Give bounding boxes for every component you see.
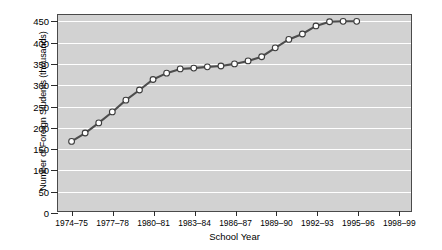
data-point-marker [327, 19, 333, 25]
plot-area: 0501001502002503003504004501974–751977–7… [57, 14, 412, 212]
x-axis-tick [195, 211, 196, 216]
y-axis-tick [51, 192, 58, 193]
data-point-marker [300, 31, 306, 37]
chart-figure: Number of Foreign Students (thousands) 0… [0, 0, 442, 250]
x-axis-tick-label: 1974–75 [55, 218, 88, 228]
y-axis-tick-label: 250 [33, 101, 49, 112]
data-point-marker [218, 63, 224, 69]
data-point-marker [272, 45, 278, 51]
data-point-marker [123, 97, 129, 103]
x-axis-tick [358, 211, 359, 216]
x-axis-tick [72, 211, 73, 216]
y-axis-tick-label: 0 [44, 208, 49, 219]
x-axis-tick-label: 1992–93 [301, 218, 334, 228]
data-point-marker [204, 64, 210, 70]
y-axis-tick-label: 350 [33, 58, 49, 69]
data-point-marker [232, 61, 238, 67]
data-point-marker [286, 37, 292, 43]
y-axis-tick [51, 149, 58, 150]
x-axis-tick [399, 211, 400, 216]
y-axis-tick-label: 150 [33, 144, 49, 155]
x-axis-tick [236, 211, 237, 216]
x-axis-tick [154, 211, 155, 216]
y-axis-tick [51, 107, 58, 108]
x-axis-tick [113, 211, 114, 216]
y-axis-tick-label: 450 [33, 16, 49, 27]
x-axis-tick [317, 211, 318, 216]
y-axis-tick-label: 50 [38, 186, 49, 197]
x-axis-tick [276, 211, 277, 216]
data-point-marker [164, 70, 170, 76]
y-axis-tick-label: 400 [33, 37, 49, 48]
data-point-marker [191, 65, 197, 71]
data-point-marker [150, 77, 156, 83]
y-axis-tick [51, 128, 58, 129]
data-point-marker [96, 120, 102, 126]
data-line [72, 21, 357, 141]
x-axis-tick-label: 1977–78 [96, 218, 129, 228]
y-axis-tick-label: 200 [33, 122, 49, 133]
x-axis-tick-label: 1983–84 [178, 218, 211, 228]
x-axis-tick-label: 1989–90 [260, 218, 293, 228]
data-point-marker [313, 23, 319, 29]
y-axis-tick [51, 21, 58, 22]
data-point-marker [245, 58, 251, 64]
data-point-marker [259, 54, 265, 60]
x-axis-tick-label: 1986–87 [219, 218, 252, 228]
data-point-marker [137, 87, 143, 93]
data-point-marker [340, 18, 346, 24]
y-axis-tick-label: 300 [33, 80, 49, 91]
data-point-marker [109, 109, 115, 115]
x-axis-tick-label: 1995–96 [342, 218, 375, 228]
data-point-marker [82, 130, 88, 136]
y-axis-tick [51, 85, 58, 86]
data-point-marker [354, 18, 360, 24]
x-axis-tick-label: 1980–81 [137, 218, 170, 228]
y-axis-tick [51, 64, 58, 65]
y-axis-tick [51, 170, 58, 171]
x-axis-tick-label: 1998–99 [383, 218, 416, 228]
data-point-marker [69, 139, 75, 145]
y-axis-tick [51, 43, 58, 44]
data-series-layer [58, 15, 411, 211]
y-axis-tick-label: 100 [33, 165, 49, 176]
x-axis-title: School Year [57, 231, 412, 242]
data-point-marker [177, 66, 183, 72]
y-axis-tick [51, 213, 58, 214]
